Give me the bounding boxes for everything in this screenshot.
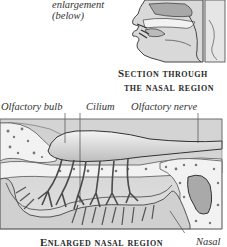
section-caption-line1: Section through	[118, 67, 208, 80]
section-caption-line2: the nasal region	[124, 81, 214, 94]
callout-below: (below)	[52, 10, 84, 21]
enlarged-nasal-region-illustration	[0, 113, 227, 233]
label-cilium: Cilium	[86, 101, 115, 112]
head-section-illustration	[125, 0, 227, 64]
enlarged-region-caption: Enlarged nasal region	[40, 236, 163, 247]
label-nasal: Nasal	[196, 236, 221, 247]
callout-enlargement: enlargement	[52, 0, 104, 10]
label-olfactory-nerve: Olfactory nerve	[131, 101, 197, 112]
label-olfactory-bulb: Olfactory bulb	[1, 101, 63, 112]
